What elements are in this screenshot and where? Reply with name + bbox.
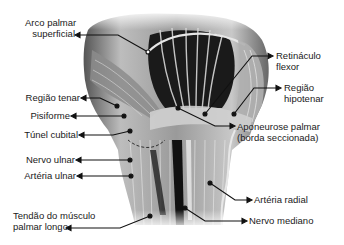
label-arteria-ulnar: Artéria ulnar [14, 170, 76, 181]
label-regiao-tenar: Região tenar [18, 92, 80, 103]
label-tunel-cubital: Túnel cubital [18, 129, 78, 140]
label-nervo-ulnar: Nervo ulnar [18, 154, 75, 165]
label-line: Nervo mediano [249, 215, 313, 226]
label-pisiforme: Pisiforme [22, 110, 70, 121]
anatomy-figure: Arco palmar superficial Região tenar Pis… [0, 0, 344, 245]
label-line: flexor [276, 61, 321, 72]
label-line: Retináculo [276, 50, 321, 61]
label-line: Nervo ulnar [18, 154, 75, 165]
label-line: Artéria ulnar [14, 170, 76, 181]
label-line: hipotenar [284, 93, 324, 104]
label-nervo-mediano: Nervo mediano [249, 215, 313, 226]
label-line: Aponeurose palmar [237, 121, 320, 132]
label-line: Pisiforme [22, 110, 70, 121]
label-regiao-hipotenar: Região hipotenar [284, 82, 324, 104]
label-aponeurose-palmar: Aponeurose palmar (borda seccionada) [237, 121, 320, 143]
label-line: Artéria radial [254, 194, 308, 205]
label-line: superficial [25, 28, 75, 39]
label-line: (borda seccionada) [237, 132, 320, 143]
label-line: Região [284, 82, 324, 93]
label-line: Túnel cubital [18, 129, 78, 140]
label-arteria-radial: Artéria radial [254, 194, 308, 205]
label-retinaculo-flexor: Retináculo flexor [276, 50, 321, 72]
label-tendao-palmar-longo: Tendão do músculo palmar longo [13, 210, 95, 232]
label-line: Tendão do músculo [13, 210, 95, 221]
label-arco-palmar-superficial: Arco palmar superficial [25, 17, 75, 39]
label-line: palmar longo [13, 221, 95, 232]
label-line: Arco palmar [25, 17, 75, 28]
label-line: Região tenar [18, 92, 80, 103]
